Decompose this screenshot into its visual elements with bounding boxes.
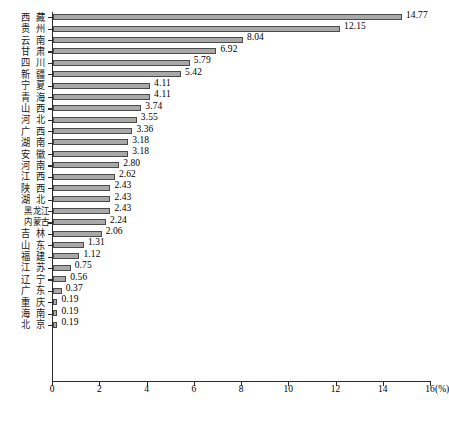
y-axis-tick — [48, 17, 52, 18]
bar-row: 0.19 — [53, 308, 431, 319]
category-label-row: 宁夏 — [0, 80, 52, 91]
category-label: 江西 — [21, 172, 52, 183]
category-label: 陕西 — [21, 183, 52, 194]
bar-row: 2.43 — [53, 194, 431, 205]
y-axis-tick — [48, 154, 52, 155]
bar-value-label: 3.74 — [145, 101, 162, 112]
bar-row: 1.12 — [53, 251, 431, 262]
y-axis-tick — [48, 97, 52, 98]
bar-value-label: 0.19 — [61, 306, 78, 317]
category-label-row: 四川 — [0, 58, 52, 69]
y-axis-tick — [48, 143, 52, 144]
bar-row: 3.18 — [53, 137, 431, 148]
x-axis-unit-label: (%) — [435, 384, 449, 395]
bar — [53, 162, 119, 168]
bar-value-label: 0.56 — [70, 272, 87, 283]
category-label-row: 湖北 — [0, 194, 52, 205]
bar-value-label: 0.37 — [66, 283, 83, 294]
category-label: 广东 — [21, 286, 52, 297]
bar — [53, 128, 132, 134]
y-axis-tick — [48, 257, 52, 258]
bar-value-label: 5.79 — [194, 55, 211, 66]
category-label: 宁夏 — [21, 81, 52, 92]
bar-value-label: 0.19 — [61, 294, 78, 305]
category-label: 湖南 — [21, 138, 52, 149]
y-axis-tick — [48, 268, 52, 269]
x-axis-tick-label: 6 — [191, 384, 196, 395]
bar-value-label: 2.43 — [114, 192, 131, 203]
category-label: 吉林 — [21, 229, 52, 240]
category-label: 青海 — [21, 92, 52, 103]
bar-value-label: 3.36 — [136, 124, 153, 135]
bar-row: 0.19 — [53, 297, 431, 308]
bar — [53, 151, 128, 157]
bar-row: 12.15 — [53, 23, 431, 34]
bar — [53, 83, 150, 89]
bar-row: 4.11 — [53, 80, 431, 91]
x-axis-line — [52, 381, 431, 382]
bar-value-label: 2.43 — [114, 180, 131, 191]
bar — [53, 310, 57, 316]
bar-value-label: 5.42 — [185, 67, 202, 78]
bar — [53, 14, 402, 20]
category-label: 四川 — [21, 58, 52, 69]
category-label-row: 北京 — [0, 320, 52, 331]
bar-row: 4.11 — [53, 92, 431, 103]
y-axis-tick — [48, 120, 52, 121]
y-axis-tick — [48, 177, 52, 178]
bar — [53, 208, 110, 214]
bar — [53, 299, 57, 305]
bar-value-label: 1.12 — [83, 249, 100, 260]
category-label: 山东 — [21, 240, 52, 251]
bar — [53, 48, 216, 54]
y-axis-tick — [48, 325, 52, 326]
category-label-row: 贵州 — [0, 23, 52, 34]
bar — [53, 105, 141, 111]
bar-row: 2.06 — [53, 228, 431, 239]
bar — [53, 253, 79, 259]
bar-row: 2.62 — [53, 171, 431, 182]
bar — [53, 185, 110, 191]
bar — [53, 196, 110, 202]
x-axis-tick-label: 8 — [239, 384, 244, 395]
y-axis-tick — [48, 108, 52, 109]
y-axis-tick — [48, 40, 52, 41]
bar — [53, 242, 84, 248]
category-axis-labels: 西藏贵州云南甘肃四川新疆宁夏青海山西河北广西湖南安徽河南江西陕西湖北黑龙江内蒙古… — [0, 12, 52, 380]
bar — [53, 174, 115, 180]
category-label: 贵州 — [21, 24, 52, 35]
x-axis-tick-label: 2 — [97, 384, 102, 395]
y-axis-tick — [48, 234, 52, 235]
category-label-row: 湖南 — [0, 137, 52, 148]
bar-value-label: 14.77 — [406, 10, 428, 21]
bar-row: 3.55 — [53, 115, 431, 126]
bar — [53, 139, 128, 145]
y-axis-tick — [48, 314, 52, 315]
bar-row: 8.04 — [53, 35, 431, 46]
bar — [53, 231, 102, 237]
bar — [53, 219, 106, 225]
bar-row: 2.43 — [53, 183, 431, 194]
y-axis-tick — [48, 188, 52, 189]
category-label-row: 江苏 — [0, 263, 52, 274]
bar-row: 5.79 — [53, 58, 431, 69]
y-axis-tick — [48, 211, 52, 212]
bar — [53, 276, 66, 282]
category-label: 云南 — [21, 35, 52, 46]
bar-value-label: 3.18 — [132, 135, 149, 146]
y-axis-tick — [48, 222, 52, 223]
bar-row: 1.31 — [53, 240, 431, 251]
category-label-row: 河北 — [0, 115, 52, 126]
category-label: 安徽 — [21, 149, 52, 160]
x-axis-tick-label: 16 — [425, 384, 435, 395]
bar — [53, 322, 57, 328]
bar-value-label: 2.80 — [123, 158, 140, 169]
plot-area: 14.7712.158.046.925.795.424.114.113.743.… — [53, 12, 431, 380]
x-axis-tick-label: 14 — [378, 384, 388, 395]
bar — [53, 265, 71, 271]
y-axis-tick — [48, 131, 52, 132]
bar-row: 0.37 — [53, 285, 431, 296]
bar-value-label: 6.92 — [220, 44, 237, 55]
bar-row: 3.74 — [53, 103, 431, 114]
